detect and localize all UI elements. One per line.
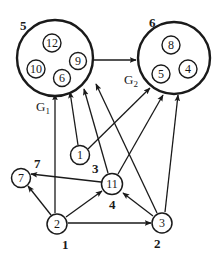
svg-text:6: 6 — [59, 71, 65, 85]
node-5: 5 — [152, 65, 170, 83]
group-g2-circle — [138, 22, 210, 94]
graph-diagram: 5 G1 12 10 9 6 6 G2 8 — [0, 0, 223, 260]
group-g1-name-label: G1 — [36, 99, 50, 116]
svg-text:12: 12 — [46, 36, 58, 50]
node-8: 8 — [162, 36, 180, 54]
edge-1-to-g2 — [88, 88, 150, 149]
node-6: 6 — [54, 70, 71, 87]
svg-text:4: 4 — [185, 62, 191, 76]
node-10: 10 — [27, 60, 45, 78]
node-1-number-label: 3 — [92, 161, 99, 176]
node-4: 4 — [179, 60, 197, 78]
svg-text:5: 5 — [158, 67, 164, 81]
edge-3-to-g1 — [96, 84, 157, 213]
svg-text:10: 10 — [30, 62, 42, 76]
node-12: 12 — [43, 34, 61, 52]
svg-text:7: 7 — [18, 171, 24, 185]
node-2-number-label: 1 — [62, 237, 69, 252]
group-g2: 6 G2 8 5 4 — [124, 15, 210, 94]
node-3-number-label: 2 — [154, 236, 161, 251]
svg-text:2: 2 — [54, 217, 60, 231]
edge-2-to-11 — [66, 191, 102, 217]
group-g1-number-label: 5 — [20, 18, 27, 33]
node-11-number-label: 4 — [109, 197, 116, 212]
edge-11-to-g2 — [118, 95, 163, 174]
group-g2-name-label: G2 — [124, 72, 138, 89]
node-3: 3 2 — [152, 213, 172, 251]
group-g2-number-label: 6 — [149, 15, 156, 30]
node-1: 1 — [71, 146, 90, 165]
svg-text:9: 9 — [75, 54, 81, 68]
edge-1-to-g1 — [70, 92, 78, 145]
edge-11-to-7 — [31, 174, 101, 182]
edge-2-to-7 — [28, 186, 51, 215]
svg-text:8: 8 — [168, 38, 174, 52]
node-9: 9 — [70, 53, 87, 70]
svg-text:11: 11 — [106, 177, 118, 191]
edge-3-to-g2 — [165, 95, 178, 212]
svg-text:1: 1 — [77, 148, 83, 162]
node-7-number-label: 7 — [34, 156, 41, 171]
svg-text:3: 3 — [159, 216, 165, 230]
node-7: 7 7 — [12, 156, 42, 188]
node-2: 2 1 — [47, 214, 69, 252]
